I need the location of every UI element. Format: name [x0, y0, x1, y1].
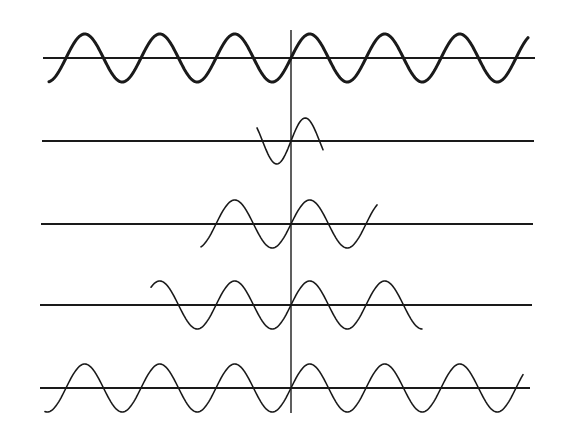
waveforms: [45, 34, 528, 412]
horizontal-axes: [40, 58, 535, 388]
wave-packet-diagram: [0, 0, 568, 442]
diagram-svg: [0, 0, 568, 442]
